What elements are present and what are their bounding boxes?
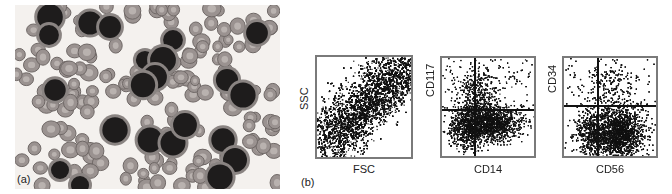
vertical-gate-line: [597, 58, 599, 156]
scatter-dots: [564, 58, 656, 156]
scatter-dots: [317, 57, 411, 157]
panel-a-micrograph: (a): [15, 5, 280, 189]
vertical-gate-line: [474, 58, 476, 156]
y-axis-label-cd117: CD117: [424, 64, 436, 97]
x-axis-label-fsc: FSC: [344, 163, 384, 175]
blood-smear-image: [15, 5, 280, 189]
horizontal-gate-line: [564, 105, 656, 107]
panel-b-label: (b): [301, 176, 314, 188]
scatter-plot-fsc-ssc: [315, 55, 413, 159]
scatter-plot-cd14-cd117: [440, 56, 536, 158]
scatter-dots: [442, 58, 534, 156]
horizontal-gate-line: [442, 109, 534, 111]
panel-a-label: (a): [17, 173, 30, 185]
scatter-plot-cd56-cd34: [562, 56, 658, 158]
x-axis-label-cd56: CD56: [588, 163, 632, 175]
y-axis-label-cd34: CD34: [546, 65, 558, 93]
x-axis-label-cd14: CD14: [466, 163, 510, 175]
y-axis-label-ssc: SSC: [298, 87, 310, 110]
